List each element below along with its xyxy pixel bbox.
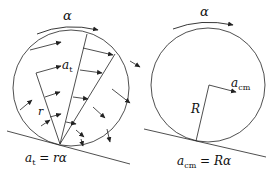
at-label: at [62,59,72,74]
at-arrow [36,66,61,73]
right-alpha-label: α [200,5,209,18]
R-label: R [191,103,200,115]
r-label: r [38,106,43,117]
acm-label: acm [231,77,250,92]
right-incline-line [144,129,266,157]
left-alpha-label: α [63,9,72,22]
wedge-edge-mid [60,34,87,144]
left-equation: at = rα [25,152,67,167]
left-wheel-circle [13,30,129,146]
left-rolling-wheel [7,27,140,164]
right-equation: acm = Rα [177,155,231,170]
